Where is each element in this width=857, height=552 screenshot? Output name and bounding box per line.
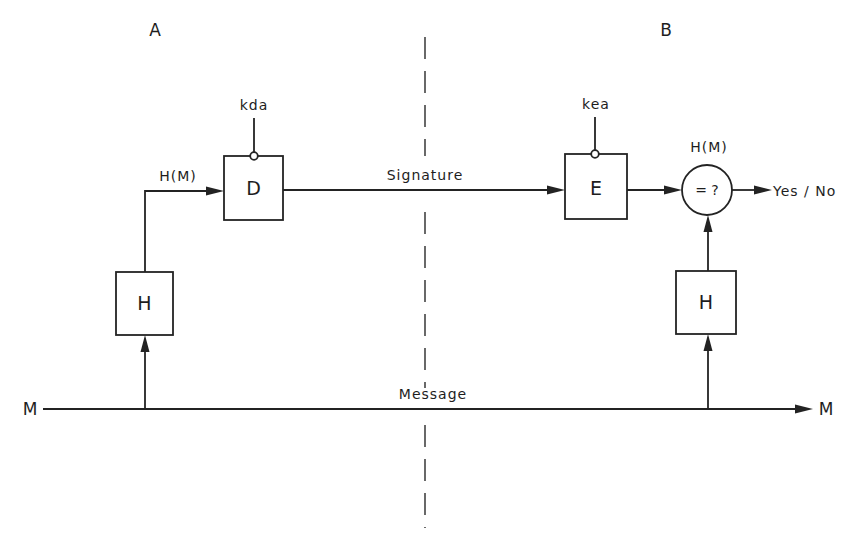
result-arrow (732, 186, 772, 195)
party-a-label: A (149, 20, 161, 40)
sign-key-input (250, 118, 258, 160)
right-hash-box: H (676, 271, 736, 334)
key-port-icon (250, 152, 258, 160)
message-in-label: M (23, 399, 38, 419)
left-hash-input-arrow (141, 335, 150, 409)
verify-box: E (565, 154, 627, 219)
left-hash-box-label: H (137, 292, 151, 314)
signature-label: Signature (387, 167, 464, 183)
verify-key-label: kea (582, 96, 610, 112)
hash-to-sign-arrow (145, 187, 224, 273)
right-hash-box-label: H (699, 291, 713, 313)
compare-label: = ? (695, 182, 719, 198)
verify-box-label: E (590, 177, 602, 199)
left-hash-box: H (116, 272, 173, 335)
sign-key-label: kda (240, 97, 269, 113)
message-out-label: M (819, 399, 834, 419)
digital-signature-diagram: A B M M Message H H(M) (0, 0, 857, 552)
signature-arrow (283, 186, 565, 195)
compare-top-label: H(M) (690, 139, 728, 155)
message-line (43, 405, 813, 414)
result-label: Yes / No (772, 183, 836, 199)
sign-box: D (224, 156, 283, 220)
verify-to-compare-arrow (627, 186, 682, 195)
left-hash-output-label: H(M) (159, 168, 197, 184)
right-hash-to-compare-arrow (704, 215, 713, 271)
party-b-label: B (660, 20, 672, 40)
verify-key-input (591, 117, 599, 158)
sign-box-label: D (246, 177, 261, 199)
right-hash-input-arrow (704, 334, 713, 409)
compare-node: = ? (682, 165, 732, 215)
key-port-icon (591, 150, 599, 158)
message-label: Message (399, 386, 467, 402)
